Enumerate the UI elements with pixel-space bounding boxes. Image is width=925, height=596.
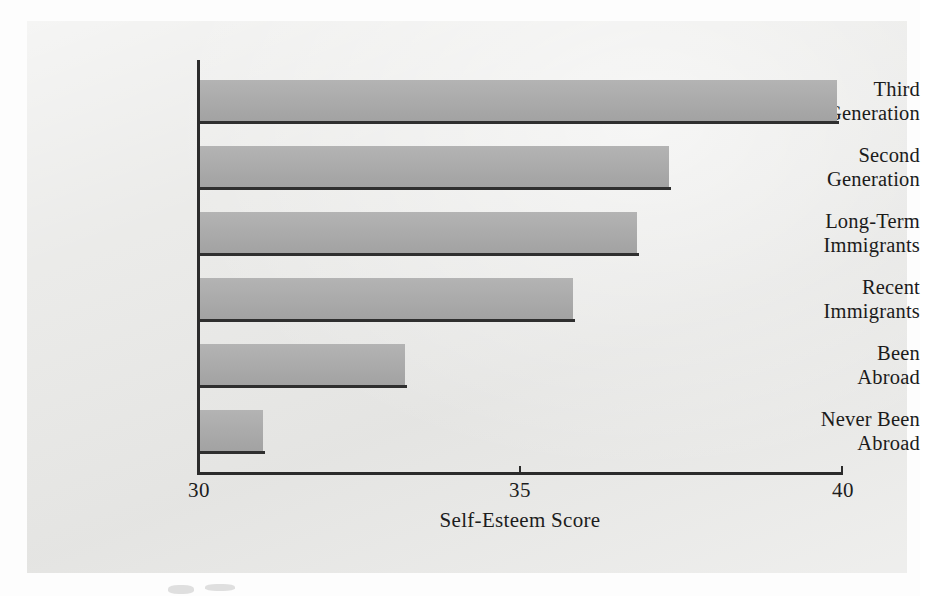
category-label-line: Never Been — [730, 407, 920, 431]
category-label-line: Immigrants — [730, 233, 920, 257]
y-axis-line — [197, 60, 200, 475]
category-label-recent-immigrants: Recent Immigrants — [730, 275, 920, 323]
scan-artifact — [168, 585, 194, 594]
bar-baseline — [199, 187, 671, 190]
bar-never-been-abroad — [199, 410, 263, 451]
category-label-line: Second — [730, 143, 920, 167]
bar-recent-immigrants — [199, 278, 573, 319]
x-tick-30 — [197, 466, 199, 475]
bar-been-abroad — [199, 344, 405, 385]
x-axis-title: Self-Esteem Score — [0, 508, 925, 533]
scan-artifact — [205, 584, 235, 591]
x-tick-label-35: 35 — [509, 478, 531, 503]
bar-second-generation — [199, 146, 669, 187]
x-tick-label-40: 40 — [832, 478, 854, 503]
category-label-line: Abroad — [730, 431, 920, 455]
category-label-second-generation: Second Generation — [730, 143, 920, 191]
bar-baseline — [199, 451, 265, 454]
x-tick-label-30: 30 — [188, 478, 210, 503]
bar-baseline — [199, 253, 639, 256]
bar-baseline — [199, 121, 839, 124]
category-label-line: Recent — [730, 275, 920, 299]
category-label-been-abroad: Been Abroad — [730, 341, 920, 389]
category-label-long-term-immigrants: Long-Term Immigrants — [730, 209, 920, 257]
bar-third-generation — [199, 80, 837, 121]
category-label-line: Been — [730, 341, 920, 365]
x-tick-35 — [519, 466, 521, 475]
bar-long-term-immigrants — [199, 212, 637, 253]
bar-baseline — [199, 319, 575, 322]
category-label-line: Abroad — [730, 365, 920, 389]
category-label-line: Immigrants — [730, 299, 920, 323]
x-tick-40 — [841, 466, 843, 475]
category-label-line: Generation — [730, 167, 920, 191]
bar-baseline — [199, 385, 407, 388]
category-label-line: Long-Term — [730, 209, 920, 233]
category-label-never-been-abroad: Never Been Abroad — [730, 407, 920, 455]
